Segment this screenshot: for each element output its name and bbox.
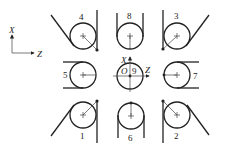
position-label: 8 bbox=[127, 11, 132, 21]
tool-tip-point-icon bbox=[163, 74, 166, 77]
position-3: 3 bbox=[161, 10, 209, 51]
tool-tip-point-icon bbox=[161, 47, 164, 50]
tool-tip-point-icon bbox=[95, 99, 98, 102]
position-label: 3 bbox=[174, 11, 179, 21]
position-label: 2 bbox=[174, 131, 179, 141]
tool-tip-point-icon bbox=[130, 102, 133, 105]
position-1: 1 bbox=[51, 99, 99, 143]
tool-tip-point-icon bbox=[95, 48, 98, 51]
center-cross-icon bbox=[80, 72, 86, 78]
position-2: 2 bbox=[161, 99, 209, 143]
center-cross-icon bbox=[174, 72, 180, 78]
legend-x-label: X bbox=[8, 25, 15, 35]
center-z-label: Z bbox=[145, 65, 151, 75]
center-x-label: X bbox=[120, 55, 127, 65]
tool-nose-diagram: X Z 4 8 3 5 bbox=[0, 0, 225, 151]
position-label: 4 bbox=[79, 12, 84, 22]
position-label: 1 bbox=[80, 131, 85, 141]
position-7: 7 bbox=[163, 62, 199, 88]
center-cross-icon bbox=[127, 33, 133, 39]
position-9: X Z O 9 bbox=[113, 55, 151, 92]
axes-legend: X Z bbox=[8, 25, 43, 59]
position-label: 7 bbox=[193, 71, 198, 81]
origin-label: O bbox=[121, 66, 128, 76]
position-5: 5 bbox=[63, 62, 96, 88]
position-8: 8 bbox=[117, 11, 143, 49]
origin-point-icon bbox=[129, 75, 132, 78]
position-4: 4 bbox=[51, 10, 99, 52]
position-label: 5 bbox=[63, 70, 68, 80]
legend-z-label: Z bbox=[37, 49, 43, 59]
position-label: 9 bbox=[132, 66, 137, 76]
position-6: 6 bbox=[118, 102, 144, 143]
tool-tip-point-icon bbox=[161, 99, 164, 102]
position-label: 6 bbox=[128, 133, 133, 143]
center-cross-icon bbox=[128, 113, 134, 119]
